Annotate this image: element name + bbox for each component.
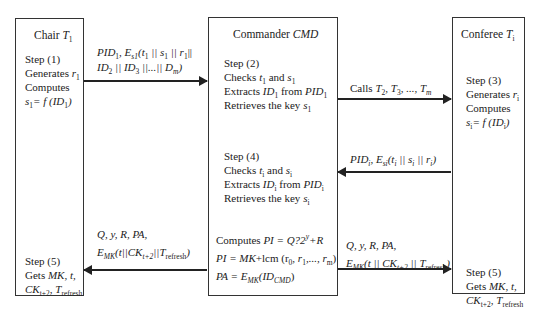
chair-box: Chair T1 Step (1) Generates r1 Computes … <box>15 18 84 296</box>
message-2-arrow <box>338 98 451 100</box>
message-5-label: Q, y, R, PA, EMK(t || CKt+2 || Trefresh) <box>346 236 450 272</box>
commander-step2: Step (2) Checks t1 and s1 Extracts ID1 f… <box>224 56 327 112</box>
chair-title: Chair T1 <box>34 29 73 41</box>
message-5-arrow <box>338 268 451 270</box>
message-3-arrow <box>338 171 451 173</box>
chair-step5: Step (5) Gets MK, t, CKt+2, Trefresh <box>25 254 82 296</box>
chair-step1: Step (1) Generates r1 Computes s1= f (ID… <box>25 52 80 108</box>
message-2-label: Calls T2, T3, ..., Tm <box>350 81 431 96</box>
conferee-title: Conferee Ti <box>461 28 515 40</box>
message-4-label: Q, y, R, PA, EMK(t||CKt+2||Trefresh) <box>97 225 190 261</box>
commander-compute: Computes PI = Q?2y+R PI = MK+lcm (r0, r1… <box>216 231 336 285</box>
message-3-label: PIDi, Esi(ti || si || ri) <box>350 152 436 167</box>
commander-title: Commander CMD <box>233 28 318 40</box>
message-1-arrow <box>84 80 207 82</box>
message-4-arrow <box>84 269 207 271</box>
message-1-label: PID1, Es1(t1 || s1 || r1|| ID2 || ID3 ||… <box>97 45 192 75</box>
conferee-step5: Step (5) Gets MK, t, CKt+2, Trefresh <box>466 265 523 307</box>
commander-step4: Step (4) Checks ti and si Extracts IDi f… <box>224 149 324 205</box>
commander-box: Commander CMD Step (2) Checks t1 and s1 … <box>208 17 338 296</box>
conferee-box: Conferee Ti Step (3) Generates ri Comput… <box>452 17 525 294</box>
conferee-step3: Step (3) Generates ri Computes si= f (ID… <box>466 73 519 129</box>
